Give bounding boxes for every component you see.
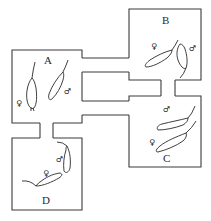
cage-label-b: B [162, 14, 169, 26]
rat-female-a-icon [27, 62, 37, 111]
sex-symbol-female-b: ♀ [151, 42, 157, 51]
cage-label-c: C [163, 152, 170, 164]
cage-label-a: A [44, 54, 52, 66]
sex-symbol-male-d: ♂ [56, 155, 63, 164]
cage-a: A ♀ ♂ [12, 50, 82, 123]
sex-symbol-female-a: ♀ [16, 99, 22, 108]
sex-symbol-male-c: ♂ [163, 105, 170, 114]
tube-a-to-c [82, 101, 129, 115]
cage-d: D ♂ ♀ [12, 138, 82, 210]
cage-diagram: A ♀ ♂ B ♀ ♂ C [0, 0, 211, 221]
cage-label-d: D [42, 194, 50, 206]
sex-symbol-male-a: ♂ [64, 87, 71, 96]
sex-symbol-male-b: ♂ [189, 44, 196, 53]
tube-a-to-b [82, 58, 129, 72]
rat-male-b-icon [177, 44, 187, 78]
rat-female-d-icon [22, 173, 62, 186]
sex-symbol-female-c: ♀ [149, 138, 155, 147]
tube-a-to-d [40, 123, 53, 138]
cage-c: C ♂ ♀ [129, 96, 201, 167]
sex-symbol-female-d: ♀ [43, 169, 49, 178]
tube-b-to-c [161, 80, 175, 96]
cage-b: B ♀ ♂ [129, 9, 201, 80]
